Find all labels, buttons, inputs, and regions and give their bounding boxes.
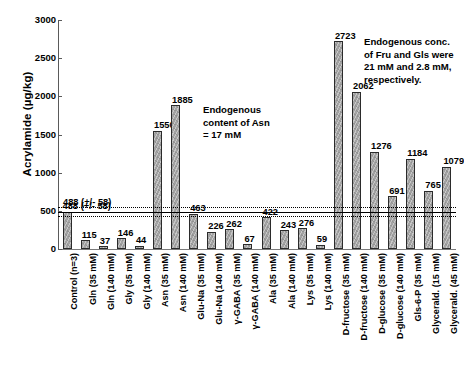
bar: 44 bbox=[135, 246, 144, 249]
bar: 226 bbox=[207, 232, 216, 249]
bar-group: 44 bbox=[135, 20, 144, 249]
x-axis-tick-label: Ala (140 mM) bbox=[288, 253, 297, 363]
bar-group: 1885 bbox=[171, 20, 180, 249]
x-axis-tick-label-text: Gly (140 mM) bbox=[143, 253, 152, 363]
bar-value-label: 765 bbox=[425, 181, 441, 190]
x-axis-tick-label: Gly (140 mM) bbox=[143, 253, 152, 363]
x-axis-tick-label: Ala (35 mM) bbox=[269, 253, 278, 363]
bar: 67 bbox=[243, 244, 252, 249]
bar-group: 1550 bbox=[153, 20, 162, 249]
y-axis-tick-2000: 2000 bbox=[14, 92, 56, 102]
bar-group: 146 bbox=[117, 20, 126, 249]
x-axis-tick-label-text: Lys (140 mM) bbox=[324, 253, 333, 363]
y-axis-tick-mark bbox=[58, 135, 62, 136]
bar: 115 bbox=[81, 240, 90, 249]
bar: 2723 bbox=[334, 41, 343, 249]
bar-group: 59 bbox=[316, 20, 325, 249]
bar-value-label: 1079 bbox=[443, 157, 464, 166]
y-axis-tick-mark bbox=[58, 173, 62, 174]
bar-value-label: 691 bbox=[389, 187, 405, 196]
y-axis-tick-2500: 2500 bbox=[14, 53, 56, 63]
y-axis-tick-1500: 1500 bbox=[14, 130, 56, 140]
bar-value-label: 276 bbox=[299, 219, 315, 228]
y-axis-tick-labels: 050010001500200025003000 bbox=[14, 0, 56, 366]
bar-value-label: 262 bbox=[226, 220, 242, 229]
y-axis-tick-mark bbox=[58, 58, 62, 59]
x-axis-line bbox=[58, 249, 456, 250]
bar: 1276 bbox=[370, 152, 379, 249]
x-axis-tick-label-text: Glycerald. (15 mM) bbox=[432, 253, 441, 363]
bar-group: 37 bbox=[99, 20, 108, 249]
x-axis-tick-label: D-glucose (140 mM) bbox=[396, 253, 405, 363]
x-axis-tick-label-text: Glu-Na (35 mM) bbox=[197, 253, 206, 363]
bar: 1885 bbox=[171, 105, 180, 249]
x-axis-tick-label: Glu-Na (140 mM) bbox=[215, 253, 224, 363]
x-axis-tick-label-text: Asn (140 mM) bbox=[179, 253, 188, 363]
bar: 243 bbox=[280, 230, 289, 249]
x-axis-tick-label: D-glucose (35 mM) bbox=[378, 253, 387, 363]
bar: 2062 bbox=[352, 92, 361, 249]
x-axis-tick-label-text: Gln (35 mM) bbox=[89, 253, 98, 363]
x-axis-tick-label: Lys (140 mM) bbox=[324, 253, 333, 363]
bar: 262 bbox=[225, 229, 234, 249]
x-axis-tick-label: D-fructose (140 mM) bbox=[360, 253, 369, 363]
reference-line-lower bbox=[58, 216, 456, 217]
x-axis-tick-label-text: γ-GABA (140 mM) bbox=[251, 253, 260, 363]
bar-value-label: 59 bbox=[317, 235, 327, 244]
bar-group: 115 bbox=[81, 20, 90, 249]
x-axis-tick-label-text: Lys (35 mM) bbox=[306, 253, 315, 363]
bar-value-label: 243 bbox=[281, 221, 297, 230]
x-axis-tick-label: Control (n=3) bbox=[70, 253, 79, 363]
reference-line-upper bbox=[58, 207, 456, 208]
bar: 59 bbox=[316, 245, 325, 250]
bar-group: 488 (+/- 58) bbox=[63, 20, 72, 249]
x-axis-tick-label-text: D-fructose (140 mM) bbox=[360, 253, 369, 363]
y-axis-tick-0: 0 bbox=[14, 244, 56, 254]
bar: 488 (+/- 58) bbox=[63, 212, 72, 249]
x-axis-tick-label-text: Gls-6-P (35 mM) bbox=[414, 253, 423, 363]
bar: 463 bbox=[189, 214, 198, 249]
y-axis-tick-3000: 3000 bbox=[14, 15, 56, 25]
bar-value-label: 67 bbox=[244, 235, 254, 244]
annotation-asn-note: Endogenous content of Asn = 17 mM bbox=[203, 104, 270, 142]
bar-group: 2062 bbox=[352, 20, 361, 249]
x-axis-tick-label-text: Control (n=3) bbox=[70, 253, 79, 363]
x-axis-tick-label: γ-GABA (35 mM) bbox=[233, 253, 242, 363]
x-axis-tick-label-text: Ala (35 mM) bbox=[269, 253, 278, 363]
bar: 146 bbox=[117, 238, 126, 249]
bar-value-label: 115 bbox=[82, 231, 97, 240]
x-axis-tick-label-text: D-fructose (35 mM) bbox=[342, 253, 351, 363]
x-axis-tick-label-text: Gln (140 mM) bbox=[107, 253, 116, 363]
x-axis-tick-label: Glycerald. (15 mM) bbox=[432, 253, 441, 363]
x-axis-tick-label-text: Gly (35 mM) bbox=[125, 253, 134, 363]
x-axis-tick-label-text: Asn (35 mM) bbox=[161, 253, 170, 363]
bar: 1550 bbox=[153, 131, 162, 249]
bar: 276 bbox=[298, 228, 307, 249]
x-axis-tick-label: Asn (35 mM) bbox=[161, 253, 170, 363]
bar-group: 463 bbox=[189, 20, 198, 249]
bar-group: 243 bbox=[280, 20, 289, 249]
bar-value-label: 37 bbox=[100, 237, 110, 246]
x-axis-tick-label: γ-GABA (140 mM) bbox=[251, 253, 260, 363]
bar: 765 bbox=[424, 191, 433, 249]
bar-value-label: 226 bbox=[208, 222, 224, 231]
bar: 37 bbox=[99, 246, 108, 249]
x-axis-tick-label: Asn (140 mM) bbox=[179, 253, 188, 363]
bar: 422 bbox=[262, 217, 271, 249]
bar: 691 bbox=[388, 196, 397, 249]
x-axis-tick-label: Glu-Na (35 mM) bbox=[197, 253, 206, 363]
x-axis-tick-label: Glycerald. (45 mM) bbox=[450, 253, 459, 363]
y-axis-tick-mark bbox=[58, 249, 62, 250]
reference-line-label: 488 (+/- 58) bbox=[63, 198, 111, 207]
y-axis-tick-500: 500 bbox=[14, 206, 56, 216]
x-axis-tick-label-text: D-glucose (140 mM) bbox=[396, 253, 405, 363]
x-axis-tick-label: Gls-6-P (35 mM) bbox=[414, 253, 423, 363]
x-axis-tick-label: D-fructose (35 mM) bbox=[342, 253, 351, 363]
x-axis-tick-label-text: γ-GABA (35 mM) bbox=[233, 253, 242, 363]
annotation-sugar-note: Endogenous conc. of Fru and Gls were 21 … bbox=[364, 36, 462, 87]
x-axis-tick-label: Lys (35 mM) bbox=[306, 253, 315, 363]
bar-value-label: 146 bbox=[118, 229, 134, 238]
bar: 1184 bbox=[406, 159, 415, 249]
bar-value-label: 44 bbox=[136, 236, 146, 245]
y-axis-tick-mark bbox=[58, 96, 62, 97]
